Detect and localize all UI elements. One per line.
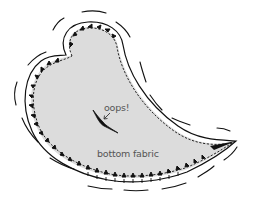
diagram-svg: oops! bottom fabric (0, 0, 258, 207)
paisley-sewing-diagram: oops! bottom fabric (0, 0, 258, 207)
oops-label: oops! (104, 102, 129, 113)
bottom-fabric-label: bottom fabric (97, 148, 159, 159)
